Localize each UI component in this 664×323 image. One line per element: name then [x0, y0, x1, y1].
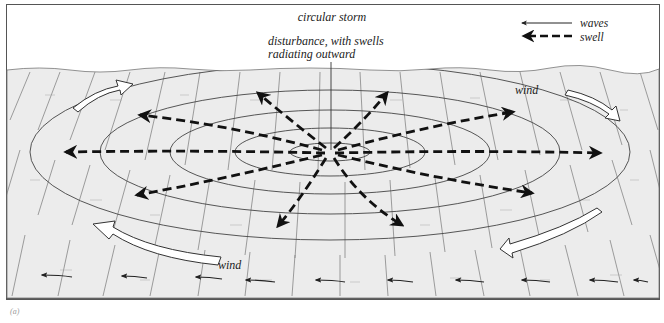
caption-marker: (a)	[10, 307, 19, 316]
legend-waves-label: waves	[580, 17, 608, 30]
figure-title: circular storm	[0, 11, 664, 24]
ocean-surface	[7, 65, 659, 298]
legend-swell-label: swell	[580, 31, 604, 44]
legend-symbols	[522, 23, 572, 36]
wind-label-upper-right: wind	[515, 84, 538, 97]
wind-label-lower-left: wind	[218, 259, 241, 272]
disturbance-annotation-line-2: radiating outward	[268, 48, 384, 61]
disturbance-annotation: disturbance, with swells radiating outwa…	[268, 35, 384, 61]
